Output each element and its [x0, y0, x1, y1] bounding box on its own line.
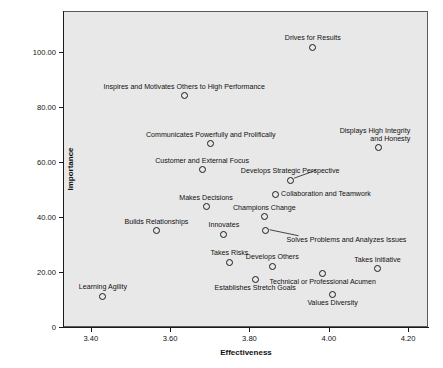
- plot-panel: Drives for ResultsInspires and Motivates…: [63, 11, 428, 327]
- data-point-label: Displays High Integrity and Honesty: [340, 127, 411, 144]
- data-point-marker[interactable]: [199, 166, 206, 173]
- data-point-label: Establishes Stretch Goals: [215, 284, 296, 292]
- data-point-label: Solves Problems and Analyzes Issues: [287, 236, 407, 244]
- data-point-marker[interactable]: [374, 265, 381, 272]
- y-tick-mark: [59, 217, 63, 218]
- data-point-marker[interactable]: [252, 276, 259, 283]
- y-tick-label: 40.00: [37, 213, 56, 222]
- x-tick-mark: [249, 328, 250, 332]
- y-tick-label: 60.00: [37, 158, 56, 167]
- data-point-label: Communicates Powerfully and Prolifically: [146, 131, 276, 139]
- data-point-label: Takes Risks: [211, 249, 249, 257]
- x-tick-label: 3.60: [163, 334, 178, 343]
- x-tick-label: 4.00: [321, 334, 336, 343]
- data-point-marker[interactable]: [262, 227, 269, 234]
- y-axis-line: [63, 11, 64, 328]
- data-point-marker[interactable]: [269, 263, 276, 270]
- data-point-marker[interactable]: [220, 231, 227, 238]
- y-tick-mark: [59, 107, 63, 108]
- plot-area: Drives for ResultsInspires and Motivates…: [64, 12, 427, 326]
- y-tick-label: 80.00: [37, 103, 56, 112]
- data-point-marker[interactable]: [329, 291, 336, 298]
- data-point-label: Innovates: [208, 221, 239, 229]
- y-tick-label: 100.00: [33, 48, 56, 57]
- data-point-marker[interactable]: [261, 213, 268, 220]
- y-axis-title-wrap: Importance: [8, 0, 22, 338]
- y-axis-title: Importance: [66, 109, 75, 229]
- x-tick-label: 3.80: [242, 334, 257, 343]
- data-point-label: Takes Initiative: [354, 256, 401, 264]
- data-point-marker[interactable]: [207, 140, 214, 147]
- x-tick-label: 4.20: [401, 334, 416, 343]
- data-point-marker[interactable]: [99, 293, 106, 300]
- data-point-label: Drives for Results: [285, 34, 341, 42]
- data-point-marker[interactable]: [181, 92, 188, 99]
- data-point-marker[interactable]: [226, 259, 233, 266]
- x-tick-mark: [408, 328, 409, 332]
- data-point-label: Develops Others: [246, 253, 299, 261]
- data-point-marker[interactable]: [319, 270, 326, 277]
- data-point-label: Makes Decisions: [179, 194, 233, 202]
- x-tick-mark: [91, 328, 92, 332]
- y-tick-label: 20.00: [37, 268, 56, 277]
- x-tick-mark: [329, 328, 330, 332]
- data-point-marker[interactable]: [153, 227, 160, 234]
- data-point-label: Customer and External Focus: [155, 157, 249, 165]
- data-point-marker[interactable]: [375, 144, 382, 151]
- data-point-label: Develops Strategic Perspective: [241, 167, 340, 175]
- data-point-marker[interactable]: [309, 44, 316, 51]
- y-tick-mark: [59, 327, 63, 328]
- x-axis-line: [63, 327, 429, 328]
- data-point-label: Collaboration and Teamwork: [281, 190, 371, 198]
- x-tick-mark: [170, 328, 171, 332]
- data-point-marker[interactable]: [203, 203, 210, 210]
- data-point-label: Builds Relationships: [124, 218, 188, 226]
- data-point-label: Values Diversity: [307, 299, 357, 307]
- scatter-plot-figure: Drives for ResultsInspires and Motivates…: [0, 0, 443, 368]
- data-point-label: Learning Agility: [79, 283, 127, 291]
- data-point-marker[interactable]: [287, 177, 294, 184]
- data-point-label: Inspires and Motivates Others to High Pe…: [104, 83, 265, 91]
- x-tick-label: 3.40: [83, 334, 98, 343]
- y-tick-mark: [59, 52, 63, 53]
- y-tick-label: 0: [52, 323, 56, 332]
- y-tick-mark: [59, 272, 63, 273]
- data-point-label: Champions Change: [233, 204, 296, 212]
- data-point-marker[interactable]: [272, 191, 279, 198]
- x-axis-title: Effectiveness: [63, 348, 429, 357]
- y-tick-mark: [59, 162, 63, 163]
